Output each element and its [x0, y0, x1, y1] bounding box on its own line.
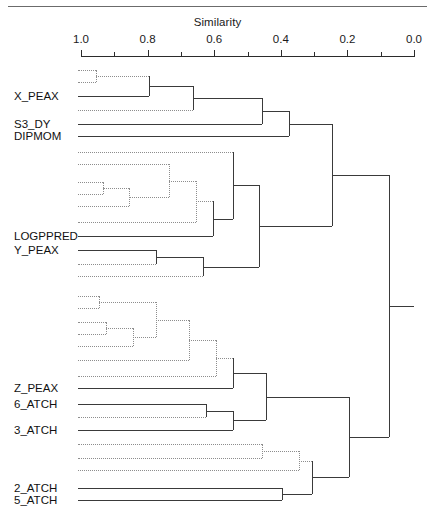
dendrogram-leaf-line: [106, 328, 133, 329]
dendrogram-leaf-line: [78, 264, 156, 265]
leaf-label-6-atch: 6_ATCH: [14, 398, 57, 410]
dendrogram-leaf-line: [78, 458, 262, 459]
dendrogram-leaf-line: [259, 226, 332, 227]
dendrogram-leaf-line: [78, 470, 299, 471]
dendrogram-leaf-line: [196, 201, 213, 202]
dendrogram-plot-area: [0, 0, 435, 514]
leaf-label-x-peax: X_PEAX: [14, 90, 59, 102]
dendrogram-leaf-line: [78, 222, 196, 223]
dendrogram-leaf-line: [193, 98, 263, 99]
axis-tick-minor: [114, 52, 115, 57]
dendrogram-leaf-line: [282, 494, 312, 495]
dendrogram-leaf-line: [233, 420, 266, 421]
dendrogram-leaf-line: [78, 70, 96, 71]
dendrogram-leaf-line: [78, 96, 149, 97]
dendrogram-figure: Similarity 1.00.80.60.40.20.0X_PEAXS3_DY…: [0, 0, 435, 514]
dendrogram-leaf-line: [216, 358, 233, 359]
dendrogram-leaf-line: [78, 250, 156, 251]
axis-tick-label: 0.4: [273, 33, 289, 45]
axis-tick-major: [81, 50, 82, 57]
dendrogram-leaf-line: [78, 152, 233, 153]
axis-tick-minor: [181, 52, 182, 57]
dendrogram-leaf-line: [312, 477, 349, 478]
dendrogram-leaf-line: [203, 267, 260, 268]
dendrogram-leaf-line: [78, 430, 233, 431]
dendrogram-leaf-line: [332, 175, 389, 176]
dendrogram-leaf-line: [78, 404, 206, 405]
axis-tick-label: 0.2: [339, 33, 355, 45]
leaf-label-y-peax: Y_PEAX: [14, 244, 59, 256]
leaf-label-z-peax: Z_PEAX: [14, 382, 58, 394]
axis-tick-label: 0.0: [406, 33, 422, 45]
dendrogram-leaf-line: [78, 276, 203, 277]
dendrogram-leaf-line: [233, 373, 266, 374]
dendrogram-leaf-line: [156, 320, 189, 321]
dendrogram-leaf-line: [289, 124, 332, 125]
axis-tick-major: [148, 50, 149, 57]
dendrogram-leaf-line: [78, 346, 133, 347]
leaf-label-2-atch: 2_ATCH: [14, 482, 57, 494]
dendrogram-leaf-line: [169, 181, 196, 182]
dendrogram-leaf-line: [78, 360, 189, 361]
dendrogram-leaf-line: [189, 340, 216, 341]
dendrogram-leaf-line: [129, 197, 169, 198]
axis-tick-label: 0.8: [140, 33, 156, 45]
leaf-label-s3-dy: S3_DY: [14, 118, 50, 130]
axis-tick-major: [214, 50, 215, 57]
dendrogram-leaf-line: [262, 451, 299, 452]
dendrogram-leaf-line: [156, 257, 203, 258]
dendrogram-leaf-line: [78, 296, 99, 297]
dendrogram-leaf-line: [78, 417, 206, 418]
dendrogram-leaf-line: [78, 110, 193, 111]
axis-tick-major: [347, 50, 348, 57]
dendrogram-leaf-line: [78, 236, 213, 237]
dendrogram-leaf-line: [78, 194, 103, 195]
dendrogram-leaf-line: [78, 308, 99, 309]
dendrogram-leaf-line: [99, 302, 156, 303]
dendrogram-leaf-line: [78, 322, 106, 323]
dendrogram-leaf-line: [78, 500, 282, 501]
dendrogram-leaf-line: [349, 437, 389, 438]
axis-tick-minor: [314, 52, 315, 57]
dendrogram-leaf-line: [299, 461, 312, 462]
dendrogram-leaf-line: [78, 164, 169, 165]
dendrogram-leaf-line: [78, 488, 282, 489]
dendrogram-leaf-line: [78, 334, 106, 335]
dendrogram-leaf-line: [133, 337, 156, 338]
dendrogram-leaf-line: [78, 124, 262, 125]
dendrogram-leaf-line: [233, 185, 260, 186]
axis-tick-label: 1.0: [73, 33, 89, 45]
dendrogram-root-line: [389, 306, 414, 307]
dendrogram-leaf-line: [78, 182, 103, 183]
dendrogram-leaf-line: [78, 444, 262, 445]
dendrogram-leaf-line: [78, 82, 96, 83]
dendrogram-leaf-line: [78, 376, 216, 377]
axis-tick-major: [281, 50, 282, 57]
axis-tick-major: [414, 50, 415, 57]
dendrogram-leaf-line: [149, 86, 192, 87]
dendrogram-leaf-line: [96, 76, 149, 77]
axis-tick-minor: [248, 52, 249, 57]
dendrogram-leaf-line: [78, 136, 289, 137]
dendrogram-leaf-line: [266, 397, 349, 398]
dendrogram-leaf-line: [103, 188, 130, 189]
leaf-label-dipmom: DIPMOM: [14, 130, 61, 142]
dendrogram-leaf-line: [78, 206, 129, 207]
dendrogram-leaf-line: [206, 411, 233, 412]
leaf-label-logppred: LOGPPRED: [14, 230, 78, 242]
dendrogram-leaf-line: [213, 219, 233, 220]
leaf-label-5-atch: 5_ATCH: [14, 494, 57, 506]
axis-tick-minor: [381, 52, 382, 57]
leaf-label-3-atch: 3_ATCH: [14, 424, 57, 436]
dendrogram-leaf-line: [78, 388, 233, 389]
dendrogram-leaf-line: [262, 111, 289, 112]
axis-tick-label: 0.6: [206, 33, 222, 45]
